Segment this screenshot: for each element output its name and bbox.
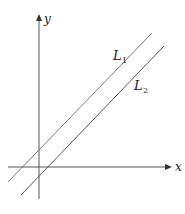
- y-axis-label: y: [43, 12, 51, 26]
- line-l2-label: L 2: [133, 78, 148, 95]
- line-l1-subscript: 1: [122, 56, 127, 65]
- x-axis-label: x: [175, 160, 182, 174]
- line-l2-subscript: 2: [143, 86, 148, 95]
- line-l1: [8, 33, 152, 182]
- x-axis: [8, 164, 172, 170]
- line-l2: [21, 46, 164, 195]
- line-l1-name: L: [112, 48, 122, 63]
- y-axis-arrow-icon: [36, 14, 42, 21]
- line-l1-label: L 1: [112, 48, 127, 65]
- diagram-canvas: x y L 1 L 2: [0, 0, 185, 214]
- line-l2-name: L: [133, 78, 143, 93]
- x-axis-arrow-icon: [165, 164, 172, 170]
- y-axis: [36, 14, 42, 199]
